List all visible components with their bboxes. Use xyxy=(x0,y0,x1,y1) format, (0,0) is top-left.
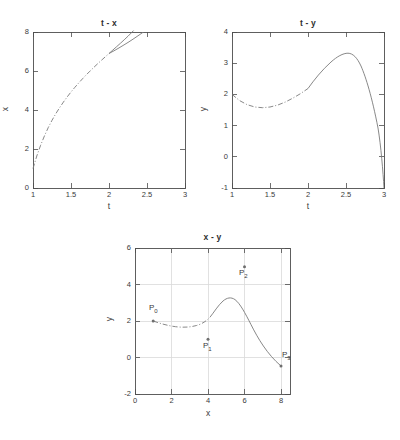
tick-y-0: 0 xyxy=(10,183,29,192)
tick-y-1: 0 xyxy=(112,353,131,362)
tick-y-0: -1 xyxy=(209,183,228,192)
tick-y-3: 6 xyxy=(10,66,29,75)
point-label-p2: P2 xyxy=(239,268,248,279)
tick-x-1: 1.5 xyxy=(59,190,83,199)
tick-y-0: -2 xyxy=(112,389,131,398)
tick-x-2: 2 xyxy=(97,190,121,199)
subplot-t-y-title: t - y xyxy=(232,18,384,28)
point-label-p1-sub: 1 xyxy=(208,346,211,352)
tick-x-3: 6 xyxy=(233,396,257,405)
tick-x-3: 2.5 xyxy=(334,190,358,199)
tick-y-1: 2 xyxy=(10,144,29,153)
tick-y-3: 2 xyxy=(209,89,228,98)
subplot-x-y-ylabel: y xyxy=(104,307,114,331)
point-label-p3: P3 xyxy=(282,350,291,361)
tick-y-2: 2 xyxy=(112,316,131,325)
tick-x-2: 2 xyxy=(296,190,320,199)
subplot-t-x-xlabel: t xyxy=(97,201,121,211)
point-label-p2-sub: 2 xyxy=(244,273,247,279)
control-point-p3 xyxy=(280,365,283,368)
subplot-t-y-ylabel: y xyxy=(198,97,208,121)
point-label-p1: P1 xyxy=(203,341,212,352)
tick-y-2: 4 xyxy=(10,105,29,114)
point-label-p0-sub: 0 xyxy=(154,308,157,314)
subplot-x-y: x - y xyxy=(100,225,320,440)
tick-y-4: 8 xyxy=(10,27,29,36)
subplot-t-x-ylabel: x xyxy=(0,97,10,121)
tick-x-4: 8 xyxy=(269,396,293,405)
subplot-x-y-title: x - y xyxy=(135,232,290,242)
tick-x-1: 1.5 xyxy=(258,190,282,199)
figure-canvas: t - x xyxy=(0,0,400,440)
tick-y-2: 1 xyxy=(209,121,228,130)
tick-y-4: 6 xyxy=(112,243,131,252)
subplot-t-y-xlabel: t xyxy=(296,201,320,211)
tick-x-4: 3 xyxy=(372,190,396,199)
subplot-x-y-xlabel: x xyxy=(196,408,220,418)
tick-x-1: 2 xyxy=(160,396,184,405)
tick-y-5: 4 xyxy=(209,27,228,36)
tick-y-4: 3 xyxy=(209,58,228,67)
subplot-t-y: t - y xyxy=(200,0,400,215)
tick-y-1: 0 xyxy=(209,152,228,161)
point-label-p3-sub: 3 xyxy=(287,355,290,361)
subplot-t-x-plot xyxy=(0,0,200,215)
control-point-p0 xyxy=(152,320,155,323)
tick-x-4: 3 xyxy=(173,190,197,199)
subplot-t-x: t - x xyxy=(0,0,200,215)
tick-x-3: 2.5 xyxy=(135,190,159,199)
subplot-t-y-plot xyxy=(200,0,400,215)
tick-y-3: 4 xyxy=(112,280,131,289)
tick-x-2: 4 xyxy=(196,396,220,405)
point-label-p0: P0 xyxy=(149,303,158,314)
subplot-t-x-title: t - x xyxy=(33,18,185,28)
